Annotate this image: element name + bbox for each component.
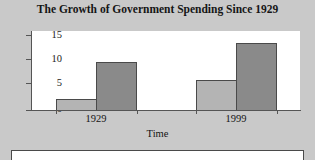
chart-title: The Growth of Government Spending Since … (0, 3, 315, 15)
x-tick-label-1999: 1999 (201, 113, 271, 124)
y-tick-label-5: 5 (40, 78, 62, 88)
y-tick-label-10: 10 (40, 54, 62, 64)
x-tick-mark-left-2 (196, 110, 197, 114)
x-tick-mark-left-1 (56, 110, 57, 114)
bar-1999-series-2[interactable] (236, 43, 277, 111)
chart-figure: The Growth of Government Spending Since … (0, 0, 315, 160)
bar-1929-series-2[interactable] (96, 62, 137, 111)
x-tick-label-1929: 1929 (61, 113, 131, 124)
y-tick-mark-10 (26, 59, 32, 60)
legend-box (11, 150, 304, 160)
y-tick-label-15: 15 (40, 30, 62, 40)
y-tick-mark-5 (26, 83, 32, 84)
y-axis-line (31, 31, 32, 111)
y-tick-mark-15 (26, 35, 32, 36)
x-axis-title: Time (0, 128, 315, 139)
bar-1999-series-1[interactable] (196, 80, 237, 111)
x-axis-line (31, 110, 301, 111)
x-tick-mark-right-2 (277, 110, 278, 114)
x-tick-mark-right-1 (137, 110, 138, 114)
